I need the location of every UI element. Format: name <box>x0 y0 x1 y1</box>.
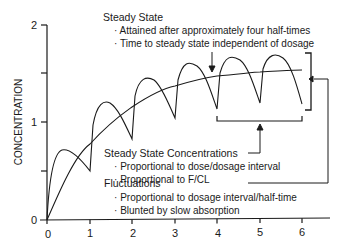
ss-bullet-2: · Time to steady state independent of do… <box>114 38 315 49</box>
y-tick-1: 1 <box>31 116 37 128</box>
x-tick-5: 5 <box>257 226 263 238</box>
x-tick-labels: 0 1 2 3 4 5 6 <box>45 226 305 240</box>
ss-heading: Steady State <box>103 11 163 23</box>
concentration-chart: 2 1 0 0 1 2 3 4 5 6 CONCENTRATION <box>0 0 340 243</box>
y-tick-labels: 2 1 0 <box>31 19 37 226</box>
ss-bullet-1: · Attained after approximately four half… <box>114 25 310 36</box>
fl-bullet-2: · Blunted by slow absorption <box>114 205 240 216</box>
x-tick-0: 0 <box>45 228 51 240</box>
x-tick-2: 2 <box>130 227 136 239</box>
annotation-steady-state: Steady State · Attained after approximat… <box>103 11 315 49</box>
fluctuation-bracket <box>305 53 311 110</box>
x-tick-6: 6 <box>299 226 305 238</box>
x-tick-4: 4 <box>215 227 221 239</box>
ssc-bullet-1: · Proportional to dose/dosage interval <box>114 161 280 172</box>
y-tick-2: 2 <box>31 19 37 31</box>
x-tick-1: 1 <box>87 227 93 239</box>
ssc-heading: Steady State Concentrations <box>104 147 238 159</box>
y-axis-label: CONCENTRATION <box>13 79 24 165</box>
fl-heading: Fluctuations <box>104 177 161 189</box>
ssc-connector <box>248 124 263 153</box>
y-tick-0: 0 <box>31 214 37 226</box>
ssc-bracket <box>217 116 302 121</box>
x-tick-3: 3 <box>172 227 178 239</box>
fl-bullet-1: · Proportional to dosage interval/half-t… <box>114 192 297 203</box>
steady-state-arrow <box>209 52 215 72</box>
x-axis <box>40 218 330 220</box>
